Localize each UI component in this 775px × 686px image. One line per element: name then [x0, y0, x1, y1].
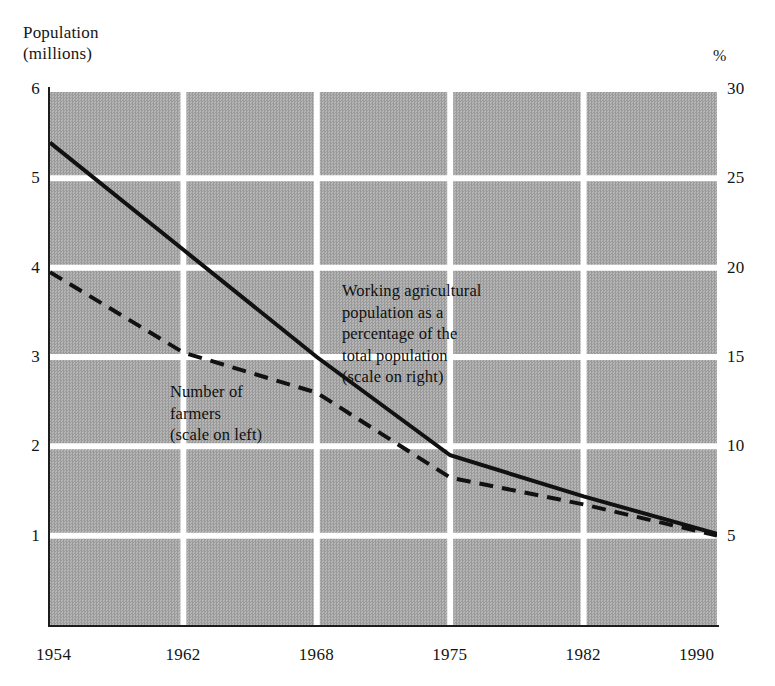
y2-tick-5: 5 [727, 527, 761, 544]
x-axis-line [48, 625, 719, 627]
x-tick-1962: 1962 [165, 646, 225, 663]
x-tick-1968: 1968 [299, 646, 359, 663]
y-tick-1: 1 [12, 527, 40, 544]
y2-tick-25: 25 [727, 169, 761, 186]
annotation-farmers-series: Number of farmers (scale on left) [170, 381, 262, 446]
right-axis-title: % [713, 45, 727, 66]
y-tick-6: 6 [12, 80, 40, 97]
x-tick-1954: 1954 [36, 646, 96, 663]
y2-tick-20: 20 [727, 259, 761, 276]
x-tick-1990: 1990 [679, 646, 739, 663]
y-tick-4: 4 [12, 259, 40, 276]
y-tick-2: 2 [12, 437, 40, 454]
chart-figure: Population (millions) % Working agricult… [0, 0, 775, 686]
y2-tick-10: 10 [727, 437, 761, 454]
y2-tick-30: 30 [727, 80, 761, 97]
annotation-percentage-series: Working agricultural population as a per… [342, 280, 482, 388]
left-axis-title: Population (millions) [23, 22, 99, 64]
y-tick-3: 3 [12, 348, 40, 365]
x-tick-1975: 1975 [432, 646, 492, 663]
x-tick-1982: 1982 [566, 646, 626, 663]
y-tick-5: 5 [12, 169, 40, 186]
y2-tick-15: 15 [727, 348, 761, 365]
